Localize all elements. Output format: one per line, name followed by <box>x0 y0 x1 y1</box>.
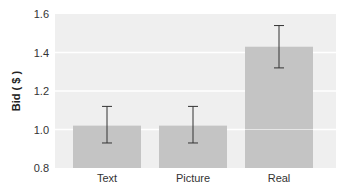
y-axis-label: Bid ( $ ) <box>10 71 22 112</box>
x-axis-ticks: TextPictureReal <box>97 172 290 184</box>
y-axis-ticks: 0.81.01.21.41.6 <box>34 8 49 174</box>
x-tick-label: Text <box>97 172 117 184</box>
y-tick-label: 1.4 <box>34 47 49 59</box>
y-tick-label: 1.2 <box>34 85 49 97</box>
y-tick-label: 1.6 <box>34 8 49 20</box>
bar-chart: 0.81.01.21.41.6 TextPictureReal Bid ( $ … <box>0 0 346 189</box>
y-tick-label: 0.8 <box>34 162 49 174</box>
x-tick-label: Picture <box>176 172 210 184</box>
x-tick-label: Real <box>268 172 291 184</box>
y-tick-label: 1.0 <box>34 124 49 136</box>
